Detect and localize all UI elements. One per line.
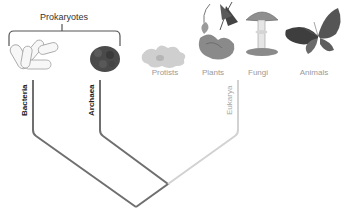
fungi-icon bbox=[246, 12, 278, 56]
prokaryotes-label: Prokaryotes bbox=[40, 12, 88, 22]
bacteria-icon bbox=[8, 38, 59, 71]
prokaryotes-bracket bbox=[9, 31, 120, 46]
animals-icon bbox=[285, 8, 340, 54]
tree-of-life-diagram: Prokaryotes Protists Plants Fungi Animal… bbox=[0, 0, 345, 210]
plants-icon bbox=[199, 2, 238, 60]
archaea-icon bbox=[90, 46, 120, 72]
protists-icon bbox=[142, 45, 186, 68]
bacteria-branch bbox=[33, 80, 136, 207]
domain-label-eukarya: Eukarya bbox=[225, 86, 234, 115]
domain-label-archaea: Archaea bbox=[87, 84, 96, 116]
domain-label-bacteria: Bacteria bbox=[20, 84, 29, 116]
kingdom-label-protists: Protists bbox=[152, 68, 179, 77]
kingdom-label-plants: Plants bbox=[202, 68, 224, 77]
kingdom-label-animals: Animals bbox=[300, 68, 328, 77]
diagram-graphics bbox=[0, 0, 345, 210]
kingdom-label-fungi: Fungi bbox=[248, 68, 268, 77]
